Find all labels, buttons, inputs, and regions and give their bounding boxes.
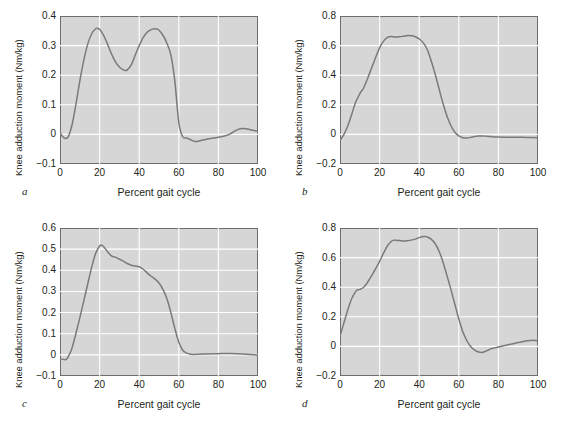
panel-c-ytick-label: −0.1 <box>4 371 56 381</box>
panel-a-ytick-label: 0 <box>4 129 56 139</box>
panel-b-xtick-label: 100 <box>530 168 547 178</box>
panel-c-xlabel: Percent gait cycle <box>60 398 258 410</box>
panel-a-curve-svg <box>60 16 258 164</box>
panel-b-xtick-row: 020406080100 <box>340 168 538 180</box>
panel-c-ytick-label: 0.2 <box>4 308 56 318</box>
panel-d-xtick-row: 020406080100 <box>340 380 538 392</box>
panel-c-xtick-label: 100 <box>250 380 267 390</box>
panel-a-letter: a <box>22 185 28 197</box>
panel-b-ytick-label: 0.8 <box>284 11 336 21</box>
panel-a-plot-area <box>60 16 258 164</box>
panel-a-xtick-label: 0 <box>57 168 63 178</box>
panel-d: Knee adduction moment (Nm/kg) 0.80.60.40… <box>280 212 560 424</box>
panel-a-xtick-row: 020406080100 <box>60 168 258 180</box>
panel-d-xtick-label: 40 <box>414 380 425 390</box>
panel-c: Knee adduction moment (Nm/kg) 0.60.50.40… <box>0 212 280 424</box>
panel-a-ytick-label: −0.1 <box>4 159 56 169</box>
panel-a-ytick-label: 0.4 <box>4 11 56 21</box>
panel-a-xtick-label: 40 <box>134 168 145 178</box>
panel-c-letter: c <box>22 397 27 409</box>
panel-d-ytick-column: 0.80.60.40.20−0.2 <box>280 228 336 376</box>
panel-a-xtick-label: 100 <box>250 168 267 178</box>
panel-d-ytick-label: −0.2 <box>284 371 336 381</box>
panel-a-ytick-label: 0.3 <box>4 41 56 51</box>
panel-c-ytick-label: 0.4 <box>4 265 56 275</box>
panel-b-xtick-label: 40 <box>414 168 425 178</box>
panel-d-xtick-label: 100 <box>530 380 547 390</box>
panel-a-xtick-label: 80 <box>213 168 224 178</box>
panel-d-ytick-label: 0.8 <box>284 223 336 233</box>
panel-b: Knee adduction moment (Nm/kg) 0.80.60.40… <box>280 0 560 212</box>
panel-c-xtick-label: 0 <box>57 380 63 390</box>
panel-d-xtick-label: 60 <box>453 380 464 390</box>
panel-d-letter: d <box>302 397 308 409</box>
panel-a-xtick-label: 60 <box>173 168 184 178</box>
panel-d-ytick-label: 0.2 <box>284 312 336 322</box>
panel-b-xtick-label: 20 <box>374 168 385 178</box>
panel-b-curve-svg <box>340 16 538 164</box>
panel-b-ytick-label: 0.4 <box>284 70 336 80</box>
figure-knee-adduction-moment-panels: Knee adduction moment (Nm/kg) 0.40.30.20… <box>0 0 561 424</box>
panel-a-ytick-label: 0.1 <box>4 100 56 110</box>
panel-c-data-curve <box>60 245 258 360</box>
panel-c-xtick-label: 40 <box>134 380 145 390</box>
panel-d-ytick-label: 0 <box>284 341 336 351</box>
panel-b-plot-area <box>340 16 538 164</box>
panel-c-curve-svg <box>60 228 258 376</box>
panel-b-ytick-label: 0.6 <box>284 41 336 51</box>
panel-c-ytick-label: 0 <box>4 350 56 360</box>
panel-b-xtick-label: 0 <box>337 168 343 178</box>
panel-c-xtick-label: 20 <box>94 380 105 390</box>
panel-d-data-curve <box>340 236 538 352</box>
panel-a-xlabel: Percent gait cycle <box>60 186 258 198</box>
panel-c-ytick-label: 0.1 <box>4 329 56 339</box>
panel-b-ytick-label: −0.2 <box>284 159 336 169</box>
panel-c-plot-area <box>60 228 258 376</box>
panel-b-letter: b <box>302 185 308 197</box>
panel-c-ytick-label: 0.5 <box>4 244 56 254</box>
panel-c-xtick-label: 80 <box>213 380 224 390</box>
panel-c-xtick-label: 60 <box>173 380 184 390</box>
panel-a-xtick-label: 20 <box>94 168 105 178</box>
panel-c-ytick-column: 0.60.50.40.30.20.10−0.1 <box>0 228 56 376</box>
panel-d-ytick-label: 0.4 <box>284 282 336 292</box>
panel-d-xtick-label: 0 <box>337 380 343 390</box>
panel-c-ytick-label: 0.6 <box>4 223 56 233</box>
panel-d-xlabel: Percent gait cycle <box>340 398 538 410</box>
panel-d-curve-svg <box>340 228 538 376</box>
panel-b-xtick-label: 80 <box>493 168 504 178</box>
panel-b-xlabel: Percent gait cycle <box>340 186 538 198</box>
panel-a-ytick-column: 0.40.30.20.10−0.1 <box>0 16 56 164</box>
panel-c-xtick-row: 020406080100 <box>60 380 258 392</box>
panel-a-ytick-label: 0.2 <box>4 70 56 80</box>
panel-b-ytick-label: 0.2 <box>284 100 336 110</box>
panel-b-data-curve <box>340 35 538 140</box>
panel-d-ytick-label: 0.6 <box>284 253 336 263</box>
panel-c-ytick-label: 0.3 <box>4 286 56 296</box>
panel-d-xtick-label: 80 <box>493 380 504 390</box>
panel-b-xtick-label: 60 <box>453 168 464 178</box>
panel-b-ytick-column: 0.80.60.40.20−0.2 <box>280 16 336 164</box>
panel-d-plot-area <box>340 228 538 376</box>
panel-b-ytick-label: 0 <box>284 129 336 139</box>
panel-a: Knee adduction moment (Nm/kg) 0.40.30.20… <box>0 0 280 212</box>
panel-d-xtick-label: 20 <box>374 380 385 390</box>
